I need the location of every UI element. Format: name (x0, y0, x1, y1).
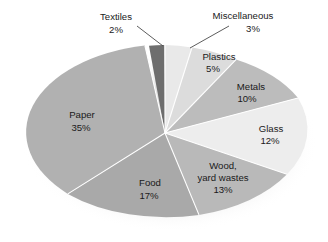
slice-label-plastics-name: Plastics (202, 51, 235, 62)
slice-label-paper-value: 35% (71, 122, 91, 133)
leader-lines (137, 26, 229, 48)
slice-label-glass-value: 12% (260, 135, 280, 146)
leader-line-textiles (137, 26, 163, 46)
callout-label-textiles-name: Textiles (100, 11, 132, 22)
slice-label-wood-line1: Wood, (209, 160, 237, 171)
slice-label-food-name: Food (139, 177, 161, 188)
pie-chart-figure: Textiles 2% Miscellaneous 3% Plastics 5%… (0, 0, 328, 242)
leader-line-miscellaneous (190, 26, 229, 48)
callout-label-textiles-value: 2% (109, 24, 123, 35)
slice-label-wood-line2: yard wastes (197, 172, 248, 183)
slice-label-plastics-value: 5% (206, 63, 220, 74)
slice-label-food-value: 17% (139, 190, 159, 201)
slice-label-glass-name: Glass (259, 123, 284, 134)
slice-label-paper-name: Paper (69, 109, 95, 120)
slice-label-metals-value: 10% (237, 93, 257, 104)
slice-label-wood-value: 13% (213, 184, 233, 195)
pie-chart-canvas: Textiles 2% Miscellaneous 3% Plastics 5%… (0, 0, 328, 242)
callout-label-miscellaneous-value: 3% (246, 23, 260, 34)
slice-label-metals-name: Metals (237, 81, 265, 92)
callout-label-miscellaneous-name: Miscellaneous (213, 10, 274, 21)
callout-label-textiles: Textiles 2% (100, 11, 132, 35)
